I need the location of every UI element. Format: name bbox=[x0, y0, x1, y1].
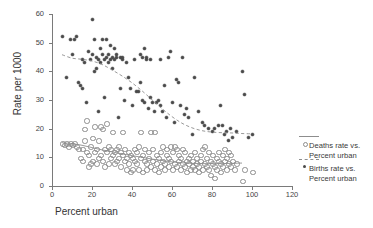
legend-solid-line-icon bbox=[299, 136, 319, 137]
legend-marker-births-row: Births rate vs. Percent urban bbox=[299, 164, 373, 172]
legend-dashed-line-icon bbox=[299, 159, 319, 160]
legend-births-line1: Births rate vs. bbox=[309, 164, 373, 174]
legend-marker-deaths-row: Deaths rate vs. Percent urban bbox=[299, 141, 373, 149]
legend-births-line2: Percent urban bbox=[309, 174, 373, 184]
deaths-trend-line bbox=[62, 143, 242, 164]
legend-entry-deaths[interactable]: Deaths rate vs. Percent urban bbox=[299, 133, 373, 149]
legend-deaths-line1: Deaths rate vs. bbox=[309, 141, 373, 151]
legend-key-births bbox=[299, 156, 373, 164]
legend-key-deaths bbox=[299, 133, 373, 141]
chart-container: 0102030405060 020406080100120 Rate per 1… bbox=[0, 0, 373, 228]
filled-dot-marker-icon bbox=[303, 165, 306, 168]
legend-entry-births[interactable]: Births rate vs. Percent urban bbox=[299, 156, 373, 172]
births-trend-line bbox=[62, 55, 252, 134]
legend: Deaths rate vs. Percent urban Births rat… bbox=[299, 133, 373, 179]
trend-lines bbox=[0, 0, 373, 228]
